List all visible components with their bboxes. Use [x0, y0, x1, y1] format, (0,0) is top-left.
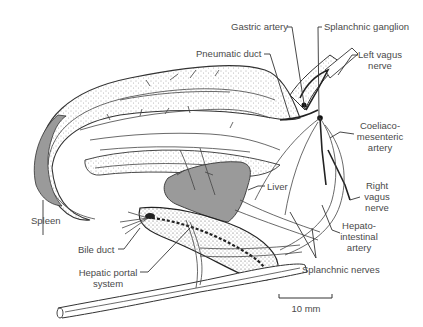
label-splanchnic-ganglion: Splanchnic ganglion: [324, 21, 409, 32]
label-hepatic-portal-system: Hepatic portal system: [76, 267, 140, 289]
label-gastric-artery: Gastric artery: [231, 21, 288, 32]
label-line: Hepato-: [336, 220, 382, 231]
label-liver: Liver: [267, 181, 288, 192]
label-line: artery: [355, 142, 405, 153]
label-line: mesenteric: [355, 131, 405, 142]
label-line: vagus: [360, 191, 394, 202]
label-line: Coeliaco-: [355, 120, 405, 131]
label-coeliaco-mesenteric-artery: Coeliaco- mesenteric artery: [355, 120, 405, 153]
label-line: Right: [360, 180, 394, 191]
label-line: Hepatic portal: [76, 267, 140, 278]
label-pneumatic-duct: Pneumatic duct: [196, 48, 261, 59]
label-left-vagus-nerve: Left vagus nerve: [358, 49, 402, 71]
scale-bar-label: 10 mm: [283, 303, 329, 314]
label-bile-duct: Bile duct: [78, 244, 114, 255]
label-line: artery: [336, 242, 382, 253]
label-line: system: [76, 278, 140, 289]
label-line: intestinal: [336, 231, 382, 242]
label-splanchnic-nerves: Splanchnic nerves: [302, 264, 380, 275]
label-hepato-intestinal-artery: Hepato- intestinal artery: [336, 220, 382, 253]
label-line: nerve: [360, 202, 394, 213]
label-line: Left vagus: [358, 49, 402, 60]
label-right-vagus-nerve: Right vagus nerve: [360, 180, 394, 213]
scale-bar: [279, 294, 332, 298]
label-spleen: Spleen: [31, 215, 61, 226]
label-line: nerve: [358, 60, 402, 71]
